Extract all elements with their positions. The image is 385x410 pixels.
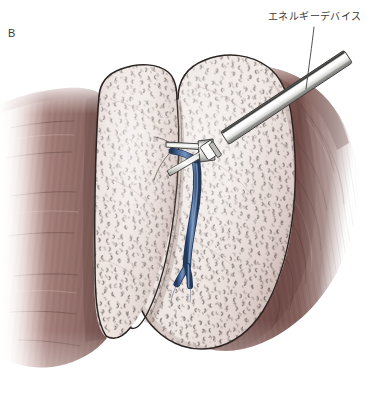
panel-letter: B: [8, 28, 16, 39]
illustration-figure: B エネルギーデバイス: [0, 0, 385, 410]
energy-device-label: エネルギーデバイス: [268, 11, 362, 22]
surgical-illustration-canvas: [0, 0, 385, 410]
